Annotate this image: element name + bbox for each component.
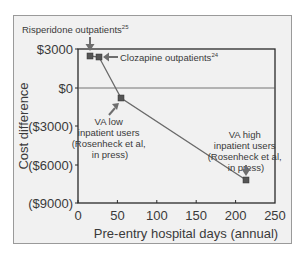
data-point-va-high <box>243 177 249 183</box>
y-tick-label: $3000 <box>37 42 73 57</box>
chart-svg: $3000 $0 ($3000) ($6000) ($9000) 0 50 10… <box>0 0 306 260</box>
data-point-risperidone <box>87 53 93 59</box>
x-tick-label: 0 <box>74 208 81 223</box>
arrow-left-icon <box>103 53 118 62</box>
y-tick-label: $0 <box>59 81 73 96</box>
x-tick-label: 250 <box>264 208 286 223</box>
y-tick-label: ($3000) <box>28 119 73 134</box>
x-axis-title: Pre-entry hospital days (annual) <box>94 226 278 241</box>
x-tick-label: 150 <box>185 208 207 223</box>
arrow-up-right-icon <box>109 103 119 115</box>
x-tick-label: 200 <box>225 208 247 223</box>
x-tick-label: 100 <box>146 208 168 223</box>
annotation-clozapine: Clozapine outpatients24 <box>120 52 219 63</box>
data-point-va-low <box>118 95 124 101</box>
y-axis: $3000 $0 ($3000) ($6000) ($9000) <box>28 42 78 211</box>
y-tick-label: ($6000) <box>28 158 73 173</box>
y-tick-label: ($9000) <box>28 196 73 211</box>
data-point-clozapine <box>96 54 102 60</box>
annotation-va-low: VA low inpatient users (Rosenheck et al,… <box>72 116 149 160</box>
x-tick-label: 50 <box>110 208 124 223</box>
y-axis-title: Cost difference <box>16 82 31 169</box>
annotation-risperidone: Risperidone outpatients25 <box>22 24 129 35</box>
